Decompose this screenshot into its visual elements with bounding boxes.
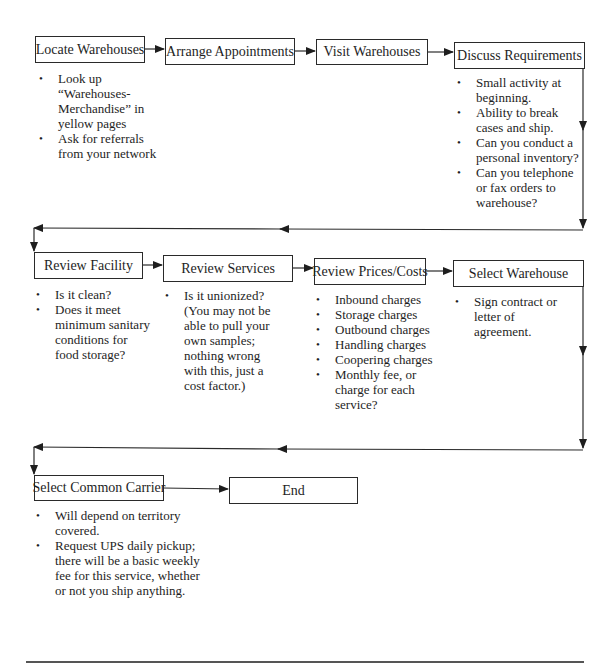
note-item: Can you conduct a personal inventory? bbox=[455, 135, 580, 165]
note-item: Coopering charges bbox=[314, 352, 439, 367]
notes-review-services: Is it unionized? (You may not be able to… bbox=[163, 288, 279, 393]
step-locate-warehouses: Locate Warehouses bbox=[35, 36, 145, 63]
footer-divider bbox=[26, 661, 584, 663]
step-review-prices-costs: Review Prices/Costs bbox=[314, 258, 426, 285]
note-item: Monthly fee, or charge for each service? bbox=[314, 367, 439, 412]
step-review-facility: Review Facility bbox=[34, 252, 143, 279]
note-item: Look up “Warehouses-Merchandise” in yell… bbox=[37, 71, 157, 131]
step-arrange-appointments: Arrange Appointments bbox=[165, 38, 295, 65]
note-item: Is it unionized? (You may not be able to… bbox=[163, 288, 279, 393]
step-review-services: Review Services bbox=[163, 255, 293, 282]
step-end: End bbox=[229, 477, 358, 504]
step-visit-warehouses: Visit Warehouses bbox=[316, 39, 428, 65]
note-item: Will depend on territory covered. bbox=[34, 508, 204, 538]
step-discuss-requirements: Discuss Requirements bbox=[454, 42, 585, 69]
note-item: Ability to break cases and ship. bbox=[455, 105, 580, 135]
note-item: Can you telephone or fax orders to wareh… bbox=[455, 165, 580, 210]
notes-discuss-requirements: Small activity at beginning. Ability to … bbox=[455, 75, 580, 210]
note-item: Handling charges bbox=[314, 337, 439, 352]
step-select-warehouse: Select Warehouse bbox=[453, 260, 584, 287]
note-item: Does it meet minimum sanitary conditions… bbox=[34, 302, 152, 362]
notes-locate-warehouses: Look up “Warehouses-Merchandise” in yell… bbox=[37, 71, 157, 161]
note-item: Inbound charges bbox=[314, 292, 439, 307]
notes-select-common-carrier: Will depend on territory covered. Reques… bbox=[34, 508, 204, 598]
note-item: Outbound charges bbox=[314, 322, 439, 337]
note-item: Ask for referrals from your network bbox=[37, 131, 157, 161]
notes-review-facility: Is it clean? Does it meet minimum sanita… bbox=[34, 287, 152, 362]
notes-select-warehouse: Sign contract or letter of agreement. bbox=[453, 294, 573, 339]
note-item: Request UPS daily pickup; there will be … bbox=[34, 538, 204, 598]
note-item: Sign contract or letter of agreement. bbox=[453, 294, 573, 339]
notes-review-prices-costs: Inbound charges Storage charges Outbound… bbox=[314, 292, 439, 412]
step-select-common-carrier: Select Common Carrier bbox=[34, 475, 164, 501]
note-item: Small activity at beginning. bbox=[455, 75, 580, 105]
note-item: Is it clean? bbox=[34, 287, 152, 302]
note-item: Storage charges bbox=[314, 307, 439, 322]
